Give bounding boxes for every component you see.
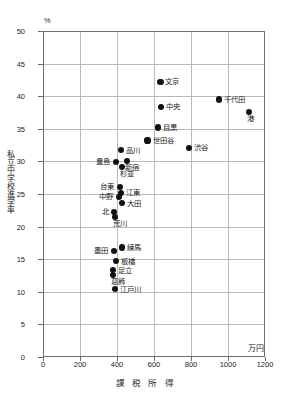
y-axis-tick-mark [38, 259, 43, 260]
y-axis-tick-mark [38, 161, 43, 162]
y-axis-tick-label: 35 [3, 124, 25, 133]
data-point-label: 板橋 [121, 258, 135, 265]
x-axis-tick-label: 1000 [208, 360, 248, 369]
x-axis-tick-label: 600 [134, 360, 174, 369]
data-point [186, 145, 192, 151]
x-axis-title: 課 税 所 得 [0, 376, 292, 388]
x-axis-tick-label: 1200 [245, 360, 285, 369]
x-axis-tick-label: 0 [23, 360, 63, 369]
x-axis-tick-label: 400 [97, 360, 137, 369]
data-point-label: 豊島 [96, 158, 110, 165]
x-axis-tick-mark [154, 357, 155, 361]
x-axis-tick-label: 200 [60, 360, 100, 369]
y-axis-tick-mark [38, 227, 43, 228]
data-point-label: 練馬 [127, 244, 141, 251]
data-point-label: 品川 [126, 147, 140, 154]
data-point [155, 124, 161, 130]
gridline-vertical [154, 32, 155, 356]
x-axis-tick-mark [191, 357, 192, 361]
y-axis-title: 私立中学校進学率 [4, 150, 15, 214]
data-point-label: 目黒 [163, 124, 177, 131]
y-axis-tick-label: 50 [3, 27, 25, 36]
x-axis-tick-mark [265, 357, 266, 361]
data-point-label: 杉並 [120, 170, 134, 177]
gridline-vertical [80, 32, 81, 356]
data-point-label: 港 [247, 115, 254, 122]
data-point-label: 世田谷 [153, 137, 174, 144]
data-point [144, 137, 150, 143]
gridline-vertical [191, 32, 192, 356]
y-axis-unit: % [44, 16, 51, 25]
y-axis-tick-mark [38, 292, 43, 293]
y-axis-tick-mark [38, 129, 43, 130]
x-axis-tick-label: 800 [171, 360, 211, 369]
y-axis-tick-label: 10 [3, 287, 25, 296]
y-axis-tick-label: 5 [3, 320, 25, 329]
data-point-label: 荒川 [113, 220, 127, 227]
x-axis-tick-mark [228, 357, 229, 361]
data-point-label: 北 [102, 208, 109, 215]
y-axis-tick-mark [38, 96, 43, 97]
x-axis-unit: 万円 [248, 342, 264, 353]
data-point-label: 台東 [100, 183, 114, 190]
data-point [119, 244, 125, 250]
y-axis-tick-label: 40 [3, 92, 25, 101]
data-point-label: 墨田 [94, 247, 108, 254]
data-point [117, 184, 123, 190]
data-point [116, 194, 122, 200]
data-point-label: 江戸川 [120, 286, 141, 293]
data-point-label: 中野 [99, 193, 113, 200]
x-axis-tick-mark [43, 357, 44, 361]
x-axis-tick-mark [117, 357, 118, 361]
y-axis-tick-mark [38, 31, 43, 32]
data-point [157, 79, 163, 85]
data-point-label: 足立 [118, 267, 132, 274]
y-axis-tick-mark [38, 194, 43, 195]
gridline-vertical [228, 32, 229, 356]
y-axis-tick-label: 20 [3, 222, 25, 231]
data-point [216, 96, 222, 102]
data-point-label: 文京 [165, 78, 179, 85]
x-axis-tick-mark [80, 357, 81, 361]
y-axis-tick-mark [38, 324, 43, 325]
plot-area [43, 31, 265, 357]
data-point-label: 千代田 [224, 96, 245, 103]
data-point-label: 中央 [166, 103, 180, 110]
scatter-chart: % 05101520253035404550020040060080010001… [0, 0, 292, 400]
data-point-label: 大田 [127, 200, 141, 207]
data-point-label: 江東 [126, 189, 140, 196]
y-axis-tick-mark [38, 64, 43, 65]
y-axis-tick-label: 15 [3, 255, 25, 264]
y-axis-tick-label: 45 [3, 59, 25, 68]
y-axis-tick-label: 0 [3, 353, 25, 362]
data-point [119, 200, 125, 206]
data-point-label: 渋谷 [194, 144, 208, 151]
